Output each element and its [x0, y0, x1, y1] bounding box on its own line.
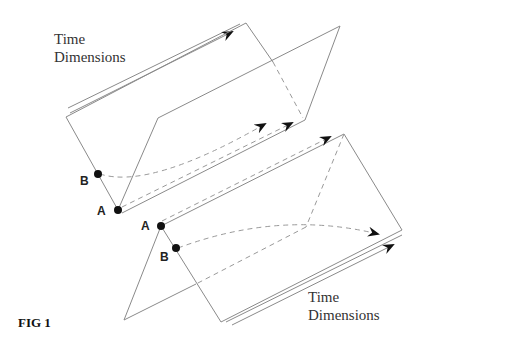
bottom-front-left-edge: [124, 226, 161, 320]
top-plane-1-edge: [66, 23, 273, 117]
bottom-time-label-line1: Time: [308, 289, 339, 305]
top-time-label-line1: Time: [54, 31, 85, 47]
bottom-point-a: [157, 222, 165, 230]
top-plane-1-left-edge: [66, 117, 118, 210]
top-trajectory-b: [100, 124, 265, 177]
bottom-point-a-label: A: [141, 219, 150, 233]
top-time-label-line2: Dimensions: [54, 49, 126, 65]
bottom-point-b-label: B: [160, 250, 169, 264]
top-point-b-label: B: [80, 174, 89, 188]
top-trajectory-a: [122, 123, 292, 207]
bottom-trajectory-b: [178, 225, 378, 248]
bottom-point-b: [172, 244, 180, 252]
figure-caption: FIG 1: [18, 315, 51, 330]
top-point-b: [94, 170, 102, 178]
bottom-front-bottom-edge: [124, 284, 196, 320]
bottom-plane-left-edge: [161, 226, 221, 322]
bottom-time-label-line2: Dimensions: [308, 307, 380, 323]
top-point-a: [114, 206, 122, 214]
top-time-axis-line-1: [68, 24, 240, 108]
top-point-a-label: A: [97, 204, 106, 218]
bottom-hidden-edge-lower: [196, 227, 306, 284]
bottom-planes: [124, 134, 402, 325]
top-plane-2-edge: [118, 26, 340, 213]
bottom-hidden-edge-upper: [306, 134, 344, 227]
diagram-canvas: Time Dimensions Time Dimensions B A A B …: [0, 0, 505, 349]
bottom-plane-top-edge: [161, 134, 344, 226]
top-plane-1-hidden-edge: [273, 62, 303, 118]
